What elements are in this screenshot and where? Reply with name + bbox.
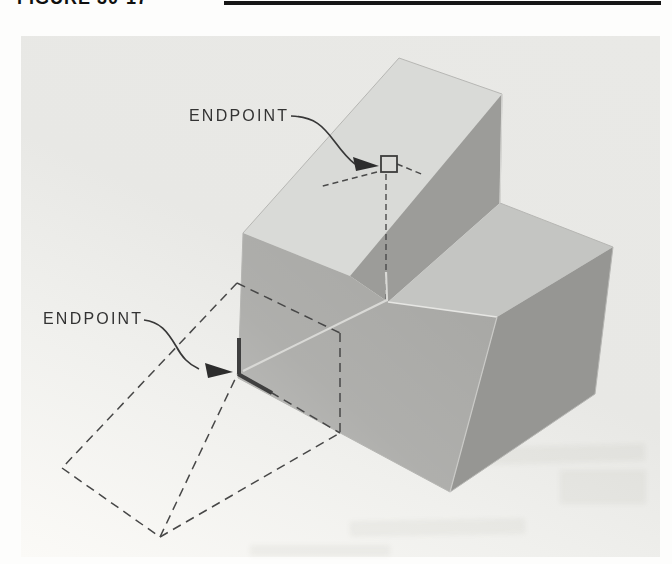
cad-figure [0,0,672,564]
arrowhead-lower-icon [205,363,233,378]
endpoint-label-lower: ENDPOINT [43,310,143,328]
endpoint-label-upper: ENDPOINT [189,107,289,125]
dashed-bottom-left-edge [62,468,160,537]
dashed-diagonal-to-endpoint [160,373,238,537]
book-page: FIGURE 30-17 [0,0,672,564]
dashed-bottom-right-edge [160,433,340,537]
osnap-square-marker-icon [381,156,397,172]
leader-lower [144,320,199,369]
